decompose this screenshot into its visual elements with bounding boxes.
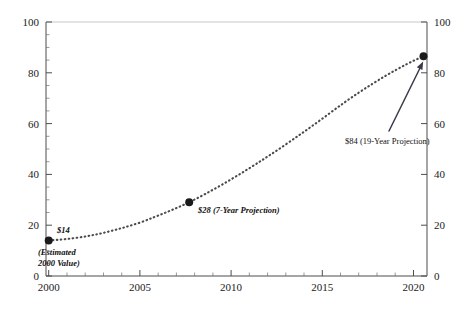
data-point-2020	[420, 52, 428, 60]
y-axis-left-tick-100: 100	[8, 16, 39, 28]
y-axis-left-tick-0: 0	[8, 270, 39, 282]
y-axis-left-tick-80: 80	[8, 67, 39, 79]
y-axis-right-tick-20: 20	[434, 219, 445, 231]
y-axis-right-tick-60: 60	[434, 118, 445, 130]
y-axis-right-tick-40: 40	[434, 168, 445, 180]
x-axis-tick-2020: 2020	[403, 281, 425, 293]
axis-frame	[46, 22, 427, 276]
annotation-7-year-projection: $28 (7-Year Projection)	[198, 205, 280, 215]
x-axis-tick-2005: 2005	[129, 281, 151, 293]
projection-line-chart: 0 20 40 60 80 100 0 20 40 60 80 100 2000…	[0, 0, 473, 309]
x-axis-tick-2000: 2000	[38, 281, 60, 293]
y-axis-right-tick-100: 100	[434, 16, 451, 28]
y-axis-left-tick-20: 20	[8, 219, 39, 231]
y-axis-right-tick-0: 0	[434, 270, 440, 282]
y-axis-left-tick-40: 40	[8, 168, 39, 180]
data-point-2007	[185, 198, 193, 206]
y-axis-left-minor-ticks	[46, 35, 50, 264]
projection-arrow	[389, 62, 423, 132]
y-axis-left-tick-60: 60	[8, 118, 39, 130]
annotation-2000-value-amount: $14	[57, 225, 70, 235]
data-point-markers	[45, 52, 428, 244]
annotation-2000-value-line2: (Estimated	[38, 247, 76, 257]
annotation-19-year-projection: $84 (19-Year Projection)	[345, 136, 430, 146]
x-axis-tick-2010: 2010	[220, 281, 242, 293]
data-point-2000	[45, 236, 53, 244]
annotation-2000-value-line3: 2000 Value)	[38, 258, 80, 268]
y-axis-right-tick-80: 80	[434, 67, 445, 79]
x-axis-tick-2015: 2015	[311, 281, 333, 293]
